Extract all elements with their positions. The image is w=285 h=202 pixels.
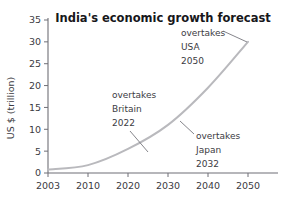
chart-figure: India's economic growth forecast 0510152… <box>0 0 285 202</box>
x-tick-label: 2020 <box>116 180 140 191</box>
x-axis-ticks: 200320102020203020402050 <box>36 173 260 191</box>
annotation-usa: overtakesUSA2050 <box>181 28 247 66</box>
annotation-britain-line: overtakes <box>112 90 157 100</box>
annotation-usa-line: 2050 <box>181 56 204 66</box>
y-tick-label: 20 <box>29 80 41 91</box>
y-tick-label: 35 <box>29 14 41 25</box>
y-axis-ticks: 05101520253035 <box>29 14 48 178</box>
annotation-japan: overtakesJapan2032 <box>180 121 241 169</box>
annotation-usa-line: overtakes <box>181 28 226 38</box>
annotation-britain-leader <box>130 131 148 152</box>
x-tick-label: 2050 <box>236 180 260 191</box>
annotation-japan-line: Japan <box>195 145 221 155</box>
y-tick-label: 30 <box>29 36 41 47</box>
y-tick-label: 25 <box>29 58 41 69</box>
annotation-britain-line: 2022 <box>112 118 135 128</box>
x-tick-label: 2010 <box>76 180 100 191</box>
y-tick-label: 10 <box>29 124 41 135</box>
y-axis-title: US $ (trillion) <box>5 77 16 140</box>
y-tick-label: 5 <box>35 146 41 157</box>
chart-title: India's economic growth forecast <box>55 11 271 25</box>
annotation-usa-leader <box>223 31 247 42</box>
x-tick-label: 2040 <box>196 180 220 191</box>
annotation-japan-line: overtakes <box>196 131 241 141</box>
line-chart-canvas: India's economic growth forecast 0510152… <box>0 0 285 202</box>
y-tick-label: 0 <box>35 167 41 178</box>
x-tick-label: 2030 <box>156 180 180 191</box>
annotation-britain-line: Britain <box>112 104 142 114</box>
annotation-japan-line: 2032 <box>196 159 219 169</box>
annotation-japan-leader <box>180 121 194 134</box>
annotation-britain: overtakesBritain2022 <box>112 90 157 152</box>
x-tick-label: 2003 <box>36 180 60 191</box>
annotation-usa-line: USA <box>181 42 200 52</box>
y-tick-label: 15 <box>29 102 41 113</box>
